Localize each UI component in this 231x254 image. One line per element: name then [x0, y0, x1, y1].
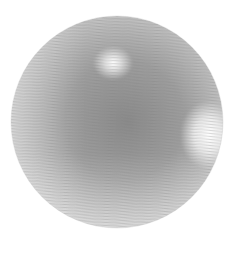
sphere-scene [0, 0, 231, 254]
stripe-texture [0, 0, 231, 254]
sphere [0, 0, 231, 254]
